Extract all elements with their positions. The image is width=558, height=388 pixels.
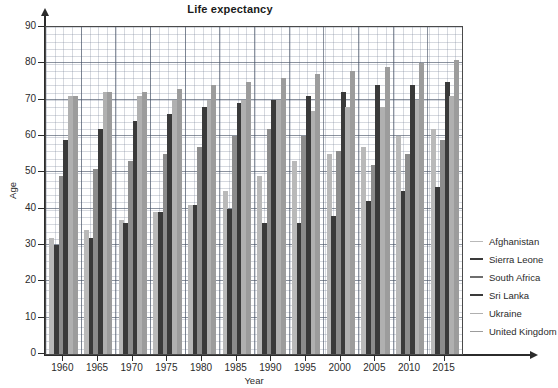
x-axis-tick (201, 356, 202, 361)
bar (73, 96, 78, 354)
bar (385, 67, 390, 354)
y-axis-tick (38, 135, 45, 136)
y-axis-tick (38, 62, 45, 63)
x-axis-tick (166, 356, 167, 361)
plot-area (45, 26, 463, 355)
gridline-vertical (115, 27, 116, 354)
bar (454, 60, 459, 354)
chart-legend: AfghanistanSierra LeoneSouth AfricaSri L… (470, 232, 556, 340)
y-axis-tick (38, 244, 45, 245)
legend-swatch-icon (470, 276, 483, 278)
bar (246, 82, 251, 355)
bar (177, 89, 182, 354)
x-axis-tick (132, 356, 133, 361)
gridline-vertical (323, 27, 324, 354)
bar (107, 92, 112, 354)
gridline-vertical (358, 27, 359, 354)
y-axis-tick (38, 353, 45, 354)
x-axis-tick (409, 356, 410, 361)
y-axis-tick-label: 50 (0, 165, 36, 176)
x-axis-tick (97, 356, 98, 361)
legend-item-label: Sri Lanka (489, 290, 529, 301)
y-axis-tick (38, 280, 45, 281)
x-axis-tick (444, 356, 445, 361)
bar (281, 78, 286, 354)
chart-container: Life expectancy 0102030405060708090 1960… (0, 0, 558, 388)
legend-swatch-icon (470, 294, 483, 296)
x-axis-tick (62, 356, 63, 361)
y-axis-tick (38, 26, 45, 27)
legend-item-label: Sierra Leone (489, 254, 543, 265)
y-axis-tick (38, 317, 45, 318)
legend-item-label: Ukraine (489, 308, 522, 319)
y-axis-tick (38, 99, 45, 100)
y-axis-tick-label: 20 (0, 274, 36, 285)
x-axis-title: Year (45, 375, 463, 386)
legend-item[interactable]: Ukraine (470, 304, 556, 322)
gridline-vertical (427, 27, 428, 354)
legend-item-label: South Africa (489, 272, 540, 283)
y-axis-tick-label: 40 (0, 202, 36, 213)
legend-item[interactable]: Sierra Leone (470, 250, 556, 268)
y-axis-tick-label: 60 (0, 129, 36, 140)
legend-swatch-icon (470, 241, 483, 242)
x-axis-tick (270, 356, 271, 361)
legend-item-label: Afghanistan (489, 236, 539, 247)
bar (211, 85, 216, 354)
legend-item[interactable]: Sri Lanka (470, 286, 556, 304)
x-axis-arrow (530, 351, 538, 359)
gridline-vertical (254, 27, 255, 354)
y-axis-tick-label: 80 (0, 56, 36, 67)
gridline-vertical (185, 27, 186, 354)
legend-item[interactable]: United Kingdom (470, 322, 556, 340)
y-axis-tick (38, 208, 45, 209)
gridline-vertical (150, 27, 151, 354)
y-axis-title: Age (7, 171, 18, 211)
gridline-vertical (289, 27, 290, 354)
y-axis-tick-label: 30 (0, 238, 36, 249)
bar (419, 63, 424, 354)
y-axis-tick-label: 0 (0, 347, 36, 358)
legend-item[interactable]: South Africa (470, 268, 556, 286)
legend-swatch-icon (470, 258, 483, 260)
y-axis-tick-label: 70 (0, 93, 36, 104)
legend-item-label: United Kingdom (489, 326, 557, 337)
gridline-vertical (81, 27, 82, 354)
x-axis-tick (305, 356, 306, 361)
bar (142, 92, 147, 354)
x-axis-tick (236, 356, 237, 361)
chart-title: Life expectancy (0, 3, 460, 15)
x-axis-tick (374, 356, 375, 361)
legend-swatch-icon (470, 313, 483, 314)
legend-item[interactable]: Afghanistan (470, 232, 556, 250)
bar (315, 74, 320, 354)
bar (350, 71, 355, 354)
y-axis-tick (38, 171, 45, 172)
legend-swatch-icon (470, 331, 483, 332)
y-axis-tick-label: 90 (0, 20, 36, 31)
gridline-vertical (219, 27, 220, 354)
x-axis-tick (340, 356, 341, 361)
gridline-vertical (393, 27, 394, 354)
x-axis-tick-label: 2015 (421, 362, 467, 373)
y-axis-tick-label: 10 (0, 311, 36, 322)
